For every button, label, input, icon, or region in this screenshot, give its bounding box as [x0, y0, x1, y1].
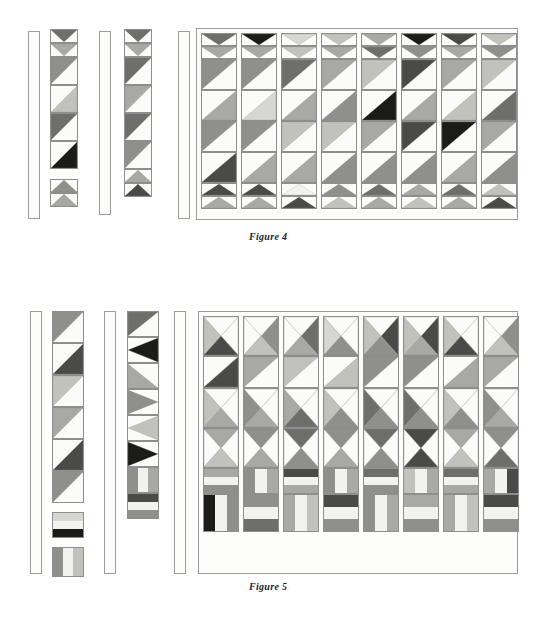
half-square-triangle	[127, 363, 159, 389]
fabric-band	[444, 495, 455, 531]
half-square-triangle	[483, 356, 519, 388]
horizontal-strip-unit	[443, 468, 479, 494]
hourglass-block	[483, 316, 519, 356]
fabric-band	[495, 469, 506, 493]
hourglass-left	[127, 389, 159, 415]
hourglass-block-shape	[204, 317, 238, 355]
half-square-triangle	[52, 343, 84, 375]
hourglass-block-shape	[244, 317, 278, 355]
half-square-triangle	[243, 356, 279, 388]
quilt-column	[203, 316, 239, 532]
fabric-band	[324, 519, 358, 531]
half-square-triangle-shape	[404, 357, 438, 387]
half-square-triangle-shape	[53, 472, 83, 502]
hourglass-right	[127, 415, 159, 441]
hourglass-block	[243, 388, 279, 428]
vertical-strip-unit	[323, 468, 359, 494]
fabric-band	[215, 495, 226, 531]
fabric-band	[295, 495, 306, 531]
point-left-triangle-shape	[128, 338, 158, 362]
point-left-triangle	[127, 337, 159, 363]
hourglass-block-shape	[484, 429, 518, 467]
vertical-strip-unit	[243, 468, 279, 494]
quilt-column	[483, 316, 519, 532]
fabric-band	[375, 495, 386, 531]
fabric-band	[244, 519, 278, 531]
fabric-band	[204, 477, 238, 485]
hourglass-right-shape	[128, 416, 158, 440]
fabric-band	[284, 477, 318, 485]
half-square-triangle-shape	[244, 357, 278, 387]
hourglass-block-shape	[284, 429, 318, 467]
fabric-band	[444, 485, 478, 493]
stack-gap	[52, 503, 84, 512]
fabric-band	[63, 548, 73, 576]
hourglass-block	[403, 388, 439, 428]
fabric-band	[244, 507, 278, 519]
hourglass-block-shape	[484, 389, 518, 427]
hourglass-block-shape	[244, 429, 278, 467]
half-square-triangle	[283, 356, 319, 388]
half-square-triangle-shape	[128, 364, 158, 388]
fabric-band	[484, 469, 495, 493]
hourglass-block	[483, 428, 519, 468]
fabric-band	[324, 495, 358, 507]
fabric-band	[364, 477, 398, 485]
hourglass-block	[363, 388, 399, 428]
horizontal-strip-unit	[483, 494, 519, 532]
hourglass-block-shape	[324, 429, 358, 467]
spacer-strip-2	[104, 311, 116, 574]
fabric-band	[284, 469, 318, 477]
fabric-band	[404, 495, 438, 507]
hourglass-block-shape	[284, 317, 318, 355]
hourglass-block-shape	[444, 389, 478, 427]
quilt-column	[403, 316, 439, 532]
hourglass-block-shape	[324, 389, 358, 427]
hourglass-block	[203, 428, 239, 468]
stack-gap	[52, 538, 84, 547]
fabric-band	[404, 469, 415, 493]
fabric-band	[484, 507, 518, 519]
half-square-triangle-shape	[484, 357, 518, 387]
fabric-band	[284, 485, 318, 493]
horizontal-strip-unit	[363, 468, 399, 494]
fabric-band	[364, 469, 398, 477]
vertical-strip-unit	[403, 468, 439, 494]
vertical-strip-unit	[283, 494, 319, 532]
fabric-band	[244, 495, 278, 507]
fabric-band	[324, 507, 358, 519]
fabric-band	[128, 502, 158, 510]
half-square-triangle	[52, 439, 84, 471]
fabric-band	[204, 495, 215, 531]
half-square-triangle	[403, 356, 439, 388]
hourglass-block	[363, 316, 399, 356]
hourglass-block	[283, 428, 319, 468]
half-square-triangle-shape	[444, 357, 478, 387]
fabric-band	[53, 521, 83, 529]
hourglass-block-shape	[444, 317, 478, 355]
hourglass-block-shape	[244, 389, 278, 427]
hourglass-block-shape	[324, 317, 358, 355]
quilt-column	[363, 316, 399, 532]
spacer-strip-3	[174, 311, 186, 574]
fabric-band	[53, 548, 63, 576]
horizontal-strip-unit	[52, 512, 84, 538]
half-square-triangle-shape	[53, 344, 83, 374]
hourglass-block	[403, 428, 439, 468]
hourglass-left-shape	[128, 390, 158, 414]
fabric-band	[73, 548, 83, 576]
horizontal-strip-unit	[127, 493, 159, 519]
hourglass-block	[323, 388, 359, 428]
hourglass-block-shape	[484, 317, 518, 355]
hourglass-block-shape	[444, 429, 478, 467]
fabric-band	[204, 485, 238, 493]
fabric-band	[415, 469, 426, 493]
half-square-triangle-shape	[53, 440, 83, 470]
hourglass-block	[323, 316, 359, 356]
point-right-triangle	[127, 441, 159, 467]
half-square-triangle-shape	[364, 357, 398, 387]
fabric-band	[128, 468, 138, 492]
horizontal-strip-unit	[243, 494, 279, 532]
fabric-band	[204, 469, 238, 477]
horizontal-strip-unit	[283, 468, 319, 494]
